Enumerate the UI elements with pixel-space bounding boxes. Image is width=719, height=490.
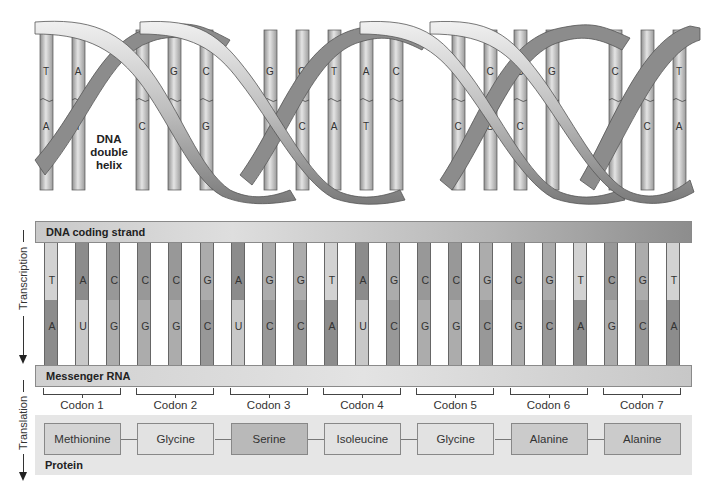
- coding-base-letter: C: [418, 274, 432, 286]
- codon-bracket-tick: [269, 394, 270, 398]
- helix-base-letter: C: [454, 121, 461, 132]
- codon-bracket: [323, 388, 401, 395]
- coding-strand-base: C: [417, 243, 431, 300]
- codon-bracket-tick: [549, 394, 550, 398]
- base-pair-column: GC: [479, 243, 493, 365]
- coding-base-letter: T: [574, 274, 588, 286]
- amino-acid-box: Glycine: [137, 423, 214, 455]
- coding-strand-base: T: [44, 243, 58, 300]
- coding-base-letter: T: [667, 274, 681, 286]
- base-pair-column: CG: [417, 243, 431, 365]
- peptide-bond-line: [121, 439, 137, 440]
- base-pair-column: AU: [75, 243, 89, 365]
- codon-label: Codon 3: [230, 399, 308, 411]
- mrna-base: G: [604, 300, 618, 365]
- base-pair-column: GC: [386, 243, 400, 365]
- base-pair-column: TA: [44, 243, 58, 365]
- mrna-base-letter: G: [138, 320, 152, 332]
- base-pair-column: TA: [573, 243, 587, 365]
- helix-base-letter: A: [676, 121, 683, 132]
- coding-base-letter: G: [387, 274, 401, 286]
- coding-base-letter: C: [107, 274, 121, 286]
- mrna-base-letter: C: [201, 320, 215, 332]
- mrna-base: A: [666, 300, 680, 365]
- helix-base-letter: T: [676, 66, 682, 77]
- mrna-base: C: [635, 300, 649, 365]
- helix-label-line: helix: [74, 159, 144, 172]
- coding-base-letter: C: [605, 274, 619, 286]
- mrna-base: G: [417, 300, 431, 365]
- helix-base-letter: C: [298, 121, 305, 132]
- mrna-base: C: [200, 300, 214, 365]
- mrna-base-letter: U: [356, 320, 370, 332]
- codon-label: Codon 5: [416, 399, 494, 411]
- base-pair-column: GC: [200, 243, 214, 365]
- coding-strand-base: C: [604, 243, 618, 300]
- mrna-base: C: [386, 300, 400, 365]
- mrna-base-letter: C: [387, 320, 401, 332]
- coding-strand-base: G: [293, 243, 307, 300]
- coding-base-letter: G: [201, 274, 215, 286]
- translation-label: Translation: [17, 396, 29, 450]
- mrna-base-letter: A: [45, 320, 59, 332]
- mrna-base-letter: A: [667, 320, 681, 332]
- codon-bracket-tick: [362, 394, 363, 398]
- peptide-bond-line: [401, 439, 417, 440]
- codon-label: Codon 7: [603, 399, 681, 411]
- base-pair-column: CG: [604, 243, 618, 365]
- helix-base-letter: A: [75, 66, 82, 77]
- base-pair-column: CG: [448, 243, 462, 365]
- mrna-base: A: [573, 300, 587, 365]
- helix-base-letter: G: [548, 66, 556, 77]
- coding-strand-base: A: [75, 243, 89, 300]
- coding-base-letter: C: [449, 274, 463, 286]
- base-pair-column: CG: [511, 243, 525, 365]
- helix-base-letter: G: [202, 121, 210, 132]
- dna-coding-strand-bar: DNA coding strand: [35, 221, 692, 243]
- base-pair-column: GC: [635, 243, 649, 365]
- helix-base-letter: G: [266, 66, 274, 77]
- helix-label: DNA double helix: [74, 133, 144, 172]
- coding-strand-base: A: [355, 243, 369, 300]
- transcription-label: Transcription: [17, 247, 29, 310]
- helix-base-letter: A: [43, 121, 50, 132]
- mrna-base: G: [511, 300, 525, 365]
- helix-base-rod: [360, 30, 373, 190]
- base-pair-column: TA: [666, 243, 680, 365]
- mrna-base-letter: A: [574, 320, 588, 332]
- helix-base-letter: C: [392, 66, 399, 77]
- helix-base-letter: T: [331, 66, 337, 77]
- mrna-base-letter: G: [107, 320, 121, 332]
- helix-base-letter: C: [516, 121, 523, 132]
- transcription-line-bottom: [23, 316, 24, 356]
- codon-label: Codon 2: [136, 399, 214, 411]
- base-pair-column: GC: [293, 243, 307, 365]
- helix-base-rod: [390, 30, 403, 190]
- coding-base-letter: A: [76, 274, 90, 286]
- mrna-base: U: [355, 300, 369, 365]
- codon-bracket: [136, 388, 214, 395]
- mrna-base: G: [106, 300, 120, 365]
- helix-base-letter: A: [363, 66, 370, 77]
- amino-acid-box: Serine: [231, 423, 308, 455]
- peptide-bond-line: [588, 439, 604, 440]
- translation-arrow-icon: [19, 472, 27, 481]
- mrna-base: A: [324, 300, 338, 365]
- codon-bracket-tick: [175, 394, 176, 398]
- helix-base-letter: T: [363, 121, 369, 132]
- helix-base-letter: C: [138, 121, 145, 132]
- helix-base-letter: C: [611, 66, 618, 77]
- base-pair-column: AU: [355, 243, 369, 365]
- amino-acid-box: Glycine: [417, 423, 494, 455]
- base-pair-column: CG: [168, 243, 182, 365]
- protein-label: Protein: [45, 459, 83, 471]
- codon-label: Codon 4: [323, 399, 401, 411]
- mrna-base: C: [293, 300, 307, 365]
- coding-base-letter: G: [543, 274, 557, 286]
- coding-strand-base: G: [200, 243, 214, 300]
- mrna-base-letter: C: [636, 320, 650, 332]
- coding-strand-base: C: [137, 243, 151, 300]
- coding-base-letter: T: [45, 274, 59, 286]
- mrna-base-letter: U: [76, 320, 90, 332]
- coding-base-letter: G: [636, 274, 650, 286]
